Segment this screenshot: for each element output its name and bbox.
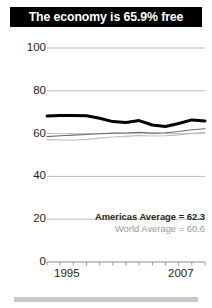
legend-world-average: World Average = 60.6 xyxy=(60,223,205,235)
x-axis-ticks-group xyxy=(47,262,205,266)
y-axis-labels: 100 80 60 40 20 0 xyxy=(8,34,46,274)
y-tick-100: 100 xyxy=(16,42,46,54)
y-tick-40: 40 xyxy=(16,170,46,182)
y-tick-80: 80 xyxy=(16,85,46,97)
footer-divider-bar xyxy=(14,297,198,302)
series-line-country xyxy=(47,115,205,126)
data-series-group xyxy=(47,115,205,140)
chart-plot-area: 100 80 60 40 20 0 Americas Average = 62.… xyxy=(0,34,212,274)
page-title: The economy is 65.9% free xyxy=(29,10,184,24)
chart-legend: Americas Average = 62.3 World Average = … xyxy=(60,211,205,235)
chart-title-banner: The economy is 65.9% free xyxy=(10,7,202,27)
series-line-americas-average xyxy=(47,129,205,137)
y-tick-20: 20 xyxy=(16,213,46,225)
x-axis-label-start: 1995 xyxy=(54,268,80,280)
legend-americas-average: Americas Average = 62.3 xyxy=(60,211,205,223)
y-tick-60: 60 xyxy=(16,128,46,140)
x-axis-label-end: 2007 xyxy=(168,268,194,280)
y-tick-0: 0 xyxy=(16,256,46,268)
